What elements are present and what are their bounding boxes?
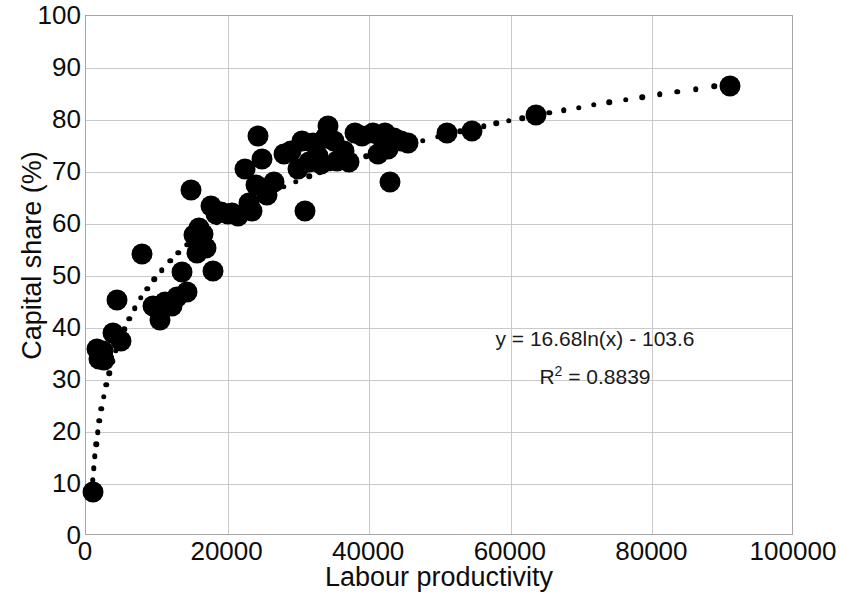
trendline-annotation: y = 16.68ln(x) - 103.6 R2 = 0.8839	[455, 322, 735, 393]
data-point	[295, 201, 316, 222]
data-point	[94, 350, 115, 371]
trendline-dot	[126, 316, 132, 322]
y-axis-title: Capital share (%)	[17, 106, 48, 406]
data-point	[461, 121, 482, 142]
trendline-dot	[657, 92, 663, 98]
x-tick-label: 60000	[430, 538, 590, 564]
data-point	[196, 238, 217, 259]
y-tick-label: 50	[21, 262, 81, 288]
trendline-dot	[640, 94, 646, 100]
trendline-dot	[97, 418, 103, 424]
trendline-dot	[167, 258, 173, 264]
trendline-dot	[103, 382, 109, 388]
x-axis-title: Labour productivity	[85, 562, 793, 593]
data-point	[131, 243, 152, 264]
data-point	[720, 76, 741, 97]
trendline-dot	[151, 277, 157, 283]
trendline-dot	[91, 465, 97, 471]
data-point	[263, 172, 284, 193]
y-tick-label: 20	[21, 418, 81, 444]
data-point	[251, 149, 272, 170]
r-squared-line: R2 = 0.8839	[455, 355, 735, 393]
r-squared-value: = 0.8839	[562, 365, 650, 388]
trendline-dot	[99, 406, 105, 412]
trendline-dot	[92, 453, 98, 459]
data-point	[339, 151, 360, 172]
data-point	[379, 172, 400, 193]
x-tick-label: 100000	[713, 538, 841, 564]
x-tick-label: 80000	[571, 538, 731, 564]
trendline-dot	[693, 86, 699, 92]
r-squared-prefix: R	[539, 365, 554, 388]
gridline-horizontal	[86, 484, 792, 485]
gridline-horizontal	[86, 172, 792, 173]
gridline-horizontal	[86, 120, 792, 121]
data-point	[171, 261, 192, 282]
data-point	[525, 104, 546, 125]
x-tick-label: 0	[5, 538, 165, 564]
trendline-dot	[420, 138, 426, 144]
data-point	[437, 123, 458, 144]
trendline-dot	[93, 442, 99, 448]
trendline-dot	[547, 110, 553, 116]
y-tick-label: 90	[21, 54, 81, 80]
trendline-dot	[95, 430, 101, 436]
trendline-dot	[494, 121, 500, 127]
gridline-horizontal	[86, 276, 792, 277]
trendline-dot	[101, 394, 107, 400]
gridline-horizontal	[86, 432, 792, 433]
trendline-dot	[576, 105, 582, 111]
y-tick-label: 60	[21, 210, 81, 236]
y-tick-label: 30	[21, 366, 81, 392]
trendline-dot	[176, 250, 182, 256]
data-point	[248, 125, 269, 146]
trendline-dot	[159, 267, 165, 273]
trendline-dot	[623, 97, 629, 103]
trendline-dot	[675, 89, 681, 95]
x-tick-label: 20000	[147, 538, 307, 564]
trendline-dot	[132, 306, 138, 312]
trendline-dot	[561, 108, 567, 114]
data-point	[111, 331, 132, 352]
y-tick-label: 10	[21, 470, 81, 496]
data-point	[180, 180, 201, 201]
trendline-dot	[607, 100, 613, 106]
trendline-dot	[519, 115, 525, 121]
trendline-dot	[506, 118, 512, 124]
data-point	[398, 133, 419, 154]
data-point	[203, 260, 224, 281]
trendline-dot	[144, 286, 150, 292]
trendline-dot	[106, 370, 112, 376]
y-tick-label: 70	[21, 158, 81, 184]
x-tick-label: 40000	[288, 538, 448, 564]
trendline-equation: y = 16.68ln(x) - 103.6	[455, 322, 735, 355]
trendline-dot	[591, 102, 597, 108]
plot-area	[85, 15, 793, 535]
trendline-dot	[712, 84, 718, 90]
data-point	[107, 290, 128, 311]
gridline-vertical	[511, 16, 512, 534]
data-point	[176, 281, 197, 302]
y-tick-label: 80	[21, 106, 81, 132]
gridline-vertical	[228, 16, 229, 534]
y-tick-label: 100	[21, 2, 81, 28]
y-tick-label: 40	[21, 314, 81, 340]
gridline-vertical	[652, 16, 653, 534]
gridline-vertical	[369, 16, 370, 534]
trendline-dot	[138, 295, 144, 301]
data-point	[83, 481, 104, 502]
gridline-horizontal	[86, 68, 792, 69]
